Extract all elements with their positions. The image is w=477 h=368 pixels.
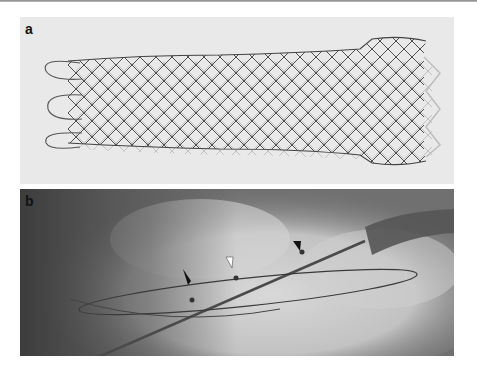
fluoroscopy-image [20, 189, 454, 356]
panel-b-fluoroscopy: b [20, 189, 454, 356]
panel-a-stent-photo: a [20, 17, 454, 184]
stent-illustration [20, 17, 454, 184]
panel-label-b: b [25, 194, 34, 208]
top-rule [0, 0, 477, 2]
panel-label-a: a [25, 22, 33, 36]
